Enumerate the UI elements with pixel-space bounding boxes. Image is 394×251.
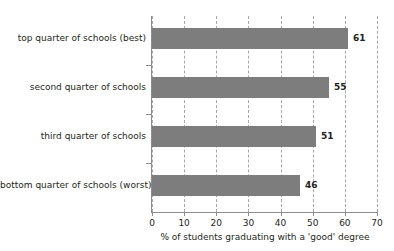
x-axis-tick-30 [248,212,249,216]
x-axis-tick-label-0: 0 [137,218,167,229]
category-label-third-quarter: third quarter of schools [0,126,146,147]
x-axis-tick-label-50: 50 [298,218,328,229]
bar-chart: 0 10 20 30 40 50 60 70 top quarter of sc… [0,0,394,251]
category-label-top-quarter: top quarter of schools (best) [0,28,146,49]
x-axis-tick-label-70: 70 [362,218,392,229]
x-axis-tick-50 [313,212,314,216]
bar-value-third-quarter: 51 [321,126,334,147]
x-axis-tick-label-60: 60 [330,218,360,229]
x-axis-tick-label-30: 30 [233,218,263,229]
bar-top-quarter[interactable] [152,28,348,49]
y-axis-tick-3 [146,163,152,164]
gridline-70 [377,16,378,212]
x-axis-tick-40 [281,212,282,216]
x-axis-tick-70 [377,212,378,216]
x-axis-tick-label-40: 40 [266,218,296,229]
category-label-bottom-quarter: bottom quarter of schools (worst) [0,175,146,196]
x-axis-tick-10 [184,212,185,216]
plot-area [152,16,377,212]
x-axis-tick-label-20: 20 [201,218,231,229]
bar-third-quarter[interactable] [152,126,316,147]
category-label-second-quarter: second quarter of schools [0,77,146,98]
bar-value-top-quarter: 61 [353,28,366,49]
y-axis-tick-2 [146,114,152,115]
bar-value-second-quarter: 55 [334,77,347,98]
bar-value-bottom-quarter: 46 [305,175,318,196]
bar-bottom-quarter[interactable] [152,175,300,196]
x-axis-title: % of students graduating with a 'good' d… [152,231,378,243]
x-axis-tick-0 [152,212,153,216]
x-axis-tick-20 [216,212,217,216]
x-axis-tick-60 [345,212,346,216]
bar-second-quarter[interactable] [152,77,329,98]
x-axis-tick-label-10: 10 [169,218,199,229]
y-axis-tick-1 [146,65,152,66]
